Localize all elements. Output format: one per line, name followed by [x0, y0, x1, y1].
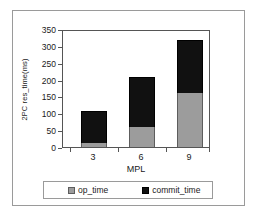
bar-segment-op-time[interactable]	[177, 93, 203, 147]
x-axis-title: MPL	[62, 164, 210, 174]
legend-swatch-op-time-icon	[68, 187, 75, 194]
chart-legend: op_time commit_time	[43, 181, 213, 199]
y-tick-label-350: 350	[42, 25, 56, 35]
bar-group-mpl-3[interactable]	[81, 111, 107, 147]
y-axis-tick-labels: 350 300 250 200 150 100 50 0	[0, 30, 62, 148]
bar-segment-commit-time[interactable]	[177, 40, 203, 93]
bar-segment-op-time[interactable]	[129, 127, 155, 147]
bar-segment-commit-time[interactable]	[81, 111, 107, 143]
chart-figure: 350 300 250 200 150 100 50 0 2PC res_tim…	[0, 0, 262, 218]
y-tick-label-300: 300	[42, 42, 56, 52]
bar-segment-op-time[interactable]	[81, 143, 107, 147]
legend-entry-commit-time[interactable]: commit_time	[142, 185, 200, 195]
y-tick-label-0: 0	[51, 143, 56, 153]
y-tick-label-150: 150	[42, 92, 56, 102]
y-axis-title-text: 2PC res_time(ms)	[20, 58, 29, 120]
y-axis-title: 2PC res_time(ms)	[17, 30, 31, 148]
legend-label-op-time: op_time	[78, 185, 108, 195]
bar-segment-commit-time[interactable]	[129, 77, 155, 127]
y-tick-label-50: 50	[47, 126, 56, 136]
x-tick-label-3: 3	[90, 152, 95, 162]
y-tick-label-100: 100	[42, 109, 56, 119]
bar-group-mpl-9[interactable]	[177, 40, 203, 147]
y-tick-label-200: 200	[42, 76, 56, 86]
x-tick-label-6: 6	[138, 152, 143, 162]
legend-swatch-commit-time-icon	[142, 187, 149, 194]
y-tick-label-250: 250	[42, 59, 56, 69]
legend-entry-op-time[interactable]: op_time	[68, 185, 108, 195]
plot-area	[62, 30, 210, 148]
legend-label-commit-time: commit_time	[152, 185, 200, 195]
bars-layer	[63, 31, 209, 147]
bar-group-mpl-6[interactable]	[129, 77, 155, 147]
x-tick-label-9: 9	[186, 152, 191, 162]
